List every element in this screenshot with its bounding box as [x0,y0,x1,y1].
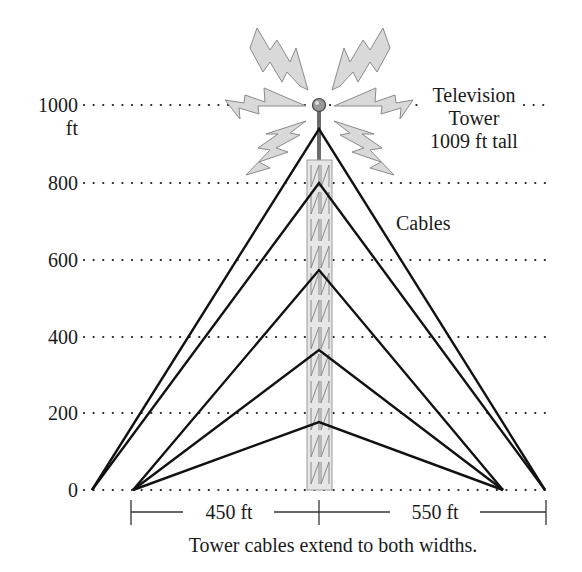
y-axis-labels: 1000 ft 800 600 400 200 0 [38,94,78,501]
tick-0: 0 [68,479,78,501]
caption: Tower cables extend to both widths. [189,534,478,556]
tower-label-line1: Television [432,84,515,106]
lightning-bolt-icon [225,88,306,119]
y-axis-unit: ft [66,117,79,139]
lightning-bolt-icon [246,121,306,175]
annotations: Television Tower 1009 ft tall Cables [396,84,518,234]
dimension-lines: 450 ft 550 ft [131,500,546,525]
tick-600: 600 [48,249,78,271]
tick-800: 800 [48,172,78,194]
tick-1000: 1000 [38,94,78,116]
lightning-bolt-icon [334,88,413,119]
tower-label-line3: 1009 ft tall [430,130,518,152]
tower-label-line2: Tower [449,107,500,129]
tower [307,99,332,491]
lightning-bolt-icon [332,28,390,90]
antenna-ball-icon [313,99,326,112]
diagram-canvas: 1000 ft 800 600 400 200 0 [0,0,582,572]
lightning-bolt-icon [250,28,308,90]
antenna-highlight [315,101,319,105]
tower-diagram: 1000 ft 800 600 400 200 0 [0,0,582,572]
tick-200: 200 [48,402,78,424]
tick-400: 400 [48,326,78,348]
dim-right-label: 550 ft [411,501,459,523]
tower-mast [317,110,321,162]
cables-label: Cables [396,212,451,234]
dim-left-label: 450 ft [205,501,253,523]
